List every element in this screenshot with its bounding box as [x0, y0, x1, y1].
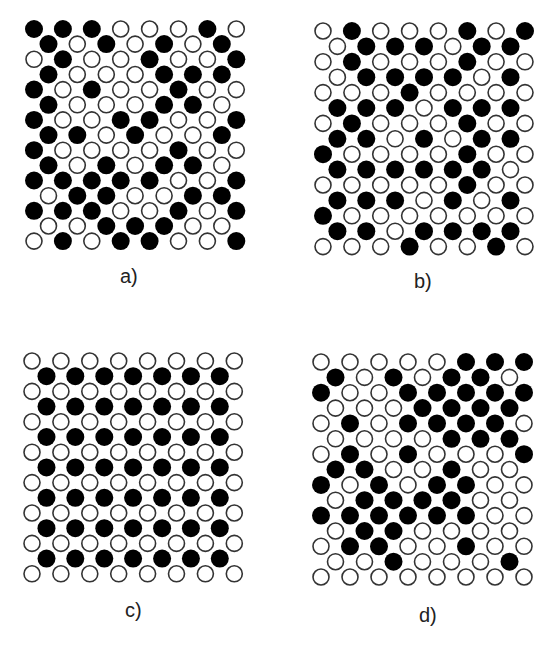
panel-label-c: c) — [125, 599, 142, 622]
filled-circle — [356, 491, 374, 509]
empty-circle — [313, 354, 329, 370]
filled-circle — [370, 476, 388, 494]
empty-circle — [313, 569, 329, 585]
empty-circle — [429, 538, 445, 554]
filled-circle — [341, 414, 359, 432]
empty-circle — [473, 554, 489, 570]
empty-circle — [487, 569, 503, 585]
empty-circle — [313, 415, 329, 431]
empty-circle — [357, 400, 373, 416]
filled-circle — [327, 461, 345, 479]
empty-circle — [502, 369, 518, 385]
filled-circle — [312, 507, 330, 525]
filled-circle — [443, 368, 461, 386]
empty-circle — [487, 446, 503, 462]
empty-circle — [342, 477, 358, 493]
empty-circle — [429, 354, 445, 370]
filled-circle — [370, 537, 388, 555]
filled-circle — [443, 491, 461, 509]
empty-circle — [429, 446, 445, 462]
filled-circle — [443, 461, 461, 479]
empty-circle — [415, 431, 431, 447]
empty-circle — [458, 569, 474, 585]
filled-circle — [501, 430, 519, 448]
filled-circle — [399, 414, 417, 432]
empty-circle — [371, 415, 387, 431]
empty-circle — [502, 462, 518, 478]
empty-circle — [371, 385, 387, 401]
empty-circle — [516, 477, 532, 493]
empty-circle — [502, 523, 518, 539]
empty-circle — [487, 508, 503, 524]
filled-circle — [356, 461, 374, 479]
empty-circle — [386, 431, 402, 447]
empty-circle — [487, 477, 503, 493]
panel-label-b: b) — [414, 270, 432, 293]
empty-circle — [342, 385, 358, 401]
empty-circle — [516, 508, 532, 524]
filled-circle — [428, 476, 446, 494]
filled-circle — [486, 414, 504, 432]
filled-circle — [341, 445, 359, 463]
empty-circle — [400, 354, 416, 370]
empty-circle — [328, 523, 344, 539]
filled-circle — [312, 476, 330, 494]
empty-circle — [400, 477, 416, 493]
filled-circle — [457, 507, 475, 525]
filled-circle — [414, 399, 432, 417]
filled-circle — [428, 384, 446, 402]
empty-circle — [400, 569, 416, 585]
filled-circle — [428, 414, 446, 432]
empty-circle — [473, 492, 489, 508]
panel-label-a: a) — [120, 265, 138, 288]
filled-circle — [399, 507, 417, 525]
filled-circle — [385, 522, 403, 540]
empty-circle — [444, 523, 460, 539]
filled-circle — [457, 537, 475, 555]
filled-circle — [341, 507, 359, 525]
empty-circle — [400, 538, 416, 554]
empty-circle — [371, 446, 387, 462]
empty-circle — [516, 569, 532, 585]
filled-circle — [501, 553, 519, 571]
empty-circle — [371, 569, 387, 585]
empty-circle — [386, 400, 402, 416]
filled-circle — [385, 491, 403, 509]
empty-circle — [516, 415, 532, 431]
filled-circle — [515, 445, 533, 463]
filled-circle — [399, 445, 417, 463]
filled-circle — [385, 368, 403, 386]
filled-circle — [457, 476, 475, 494]
filled-circle — [356, 522, 374, 540]
filled-circle — [515, 353, 533, 371]
filled-circle — [486, 384, 504, 402]
empty-circle — [357, 431, 373, 447]
empty-circle — [357, 554, 373, 570]
empty-circle — [429, 569, 445, 585]
empty-circle — [328, 400, 344, 416]
empty-circle — [415, 462, 431, 478]
empty-circle — [487, 538, 503, 554]
filled-circle — [312, 384, 330, 402]
empty-circle — [342, 569, 358, 585]
filled-circle — [414, 491, 432, 509]
empty-circle — [415, 523, 431, 539]
empty-circle — [328, 554, 344, 570]
filled-circle — [370, 507, 388, 525]
empty-circle — [313, 538, 329, 554]
empty-circle — [473, 462, 489, 478]
empty-circle — [342, 354, 358, 370]
filled-circle — [443, 399, 461, 417]
empty-circle — [357, 369, 373, 385]
filled-circle — [457, 384, 475, 402]
filled-circle — [341, 537, 359, 555]
filled-circle — [327, 368, 345, 386]
empty-circle — [386, 462, 402, 478]
filled-circle — [472, 430, 490, 448]
panel-label-d: d) — [419, 604, 437, 627]
filled-circle — [457, 414, 475, 432]
empty-circle — [328, 492, 344, 508]
lattice-d-svg — [0, 0, 553, 647]
filled-circle — [486, 353, 504, 371]
filled-circle — [501, 399, 519, 417]
